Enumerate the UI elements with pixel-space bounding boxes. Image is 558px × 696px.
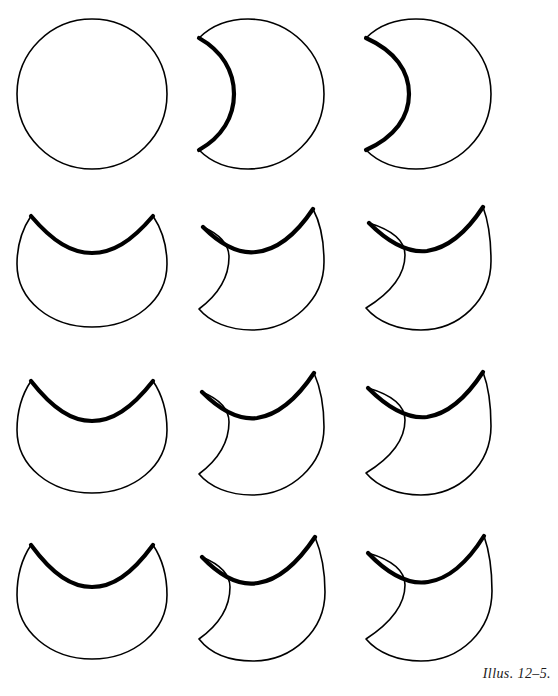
shape-outline-r2c2	[199, 209, 324, 330]
pattern-shape-r2c3	[366, 207, 491, 330]
pattern-shape-r3c3	[366, 372, 491, 495]
pattern-shape-r4c3	[366, 536, 492, 661]
pattern-shape-r3c1	[17, 381, 167, 493]
pattern-shape-r1c3	[366, 19, 491, 169]
pattern-shape-r3c2	[199, 373, 324, 495]
figure-caption: Illus. 12–5.	[483, 666, 551, 682]
pattern-shape-r1c1	[17, 19, 167, 169]
shape-outline-r1c3	[366, 19, 491, 169]
shape-outline-r3c3	[366, 372, 491, 495]
shape-outline-r3c1	[17, 381, 167, 493]
shape-outline-r4c1	[17, 545, 167, 659]
shape-outline-r1c1	[17, 19, 167, 169]
shape-outline-r1c2	[199, 19, 324, 169]
pattern-shape-r1c2	[199, 19, 324, 169]
pattern-shape-r4c1	[17, 545, 167, 659]
shape-outline-r2c3	[366, 207, 491, 330]
shape-outline-r3c2	[199, 373, 324, 495]
shape-outline-r2c1	[17, 216, 167, 327]
pattern-shape-r4c2	[199, 537, 325, 661]
shape-outline-r4c2	[199, 537, 325, 661]
shapes-layer	[0, 0, 558, 696]
pattern-shape-r2c1	[17, 216, 167, 327]
pattern-shape-r2c2	[199, 209, 324, 330]
illustration-sheet: Illus. 12–5.	[0, 0, 558, 696]
